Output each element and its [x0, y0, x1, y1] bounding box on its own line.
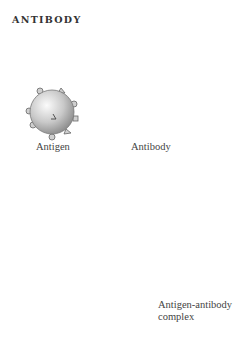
antigen-sphere — [30, 90, 74, 134]
antigen-epitope — [49, 134, 55, 140]
antibody-label: Antibody — [131, 141, 171, 152]
antigen-label: Antigen — [36, 141, 70, 152]
complex-label-line2: complex — [158, 311, 194, 322]
complex-label-line1: Antigen-antibody — [158, 299, 232, 310]
antigen-illustration — [26, 88, 78, 140]
